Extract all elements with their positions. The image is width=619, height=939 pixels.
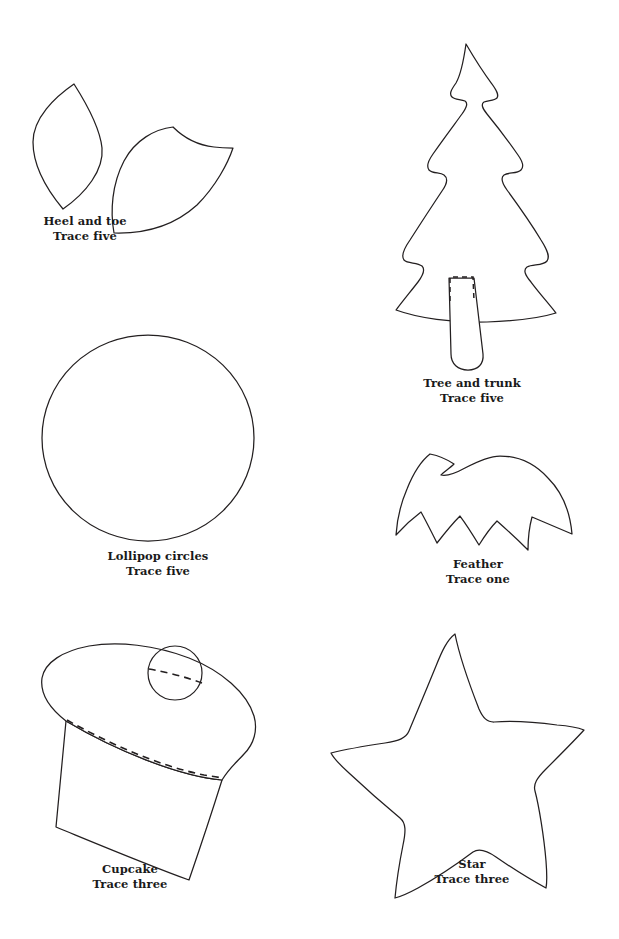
caption-heel-and-toe: Heel and toe Trace five [0,214,170,243]
caption-trace-tree-and-trunk: Trace five [382,391,562,406]
caption-trace-lollipop-circles: Trace five [68,564,248,579]
caption-trace-heel-and-toe: Trace five [0,229,170,244]
caption-feather: Feather Trace one [388,557,568,586]
caption-trace-star: Trace three [382,872,562,887]
feather-shape [396,454,572,550]
caption-name-tree-and-trunk: Tree and trunk [382,376,562,391]
caption-lollipop-circles: Lollipop circles Trace five [68,549,248,578]
caption-cupcake: Cupcake Trace three [40,862,220,891]
caption-name-star: Star [382,857,562,872]
pattern-shapes-canvas [0,0,619,939]
caption-star: Star Trace three [382,857,562,886]
caption-trace-feather: Trace one [388,572,568,587]
tree-shape [396,44,556,322]
lollipop-circle-shape [42,335,254,541]
pattern-sheet-page: Heel and toe Trace five Tree and trunk T… [0,0,619,939]
caption-tree-and-trunk: Tree and trunk Trace five [382,376,562,405]
caption-trace-cupcake: Trace three [40,877,220,892]
caption-name-heel-and-toe: Heel and toe [0,214,170,229]
caption-name-cupcake: Cupcake [40,862,220,877]
caption-name-feather: Feather [388,557,568,572]
heel-shape [33,84,102,209]
caption-name-lollipop-circles: Lollipop circles [68,549,248,564]
